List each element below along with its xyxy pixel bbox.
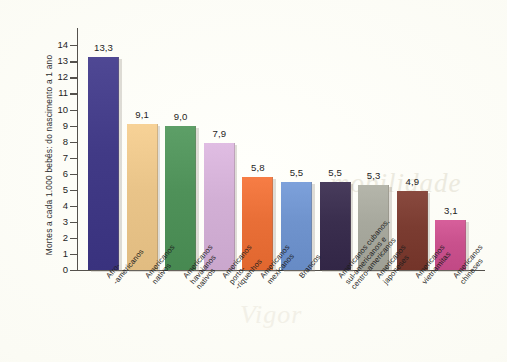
bar-value-label: 5,8 — [236, 162, 279, 173]
bar-value-label: 4,9 — [391, 176, 434, 187]
y-axis-tick-label: 12 — [46, 71, 68, 82]
y-axis-tick-label: 9 — [46, 120, 68, 131]
y-axis-tick-label: 8 — [46, 136, 68, 147]
y-axis-tick-mark — [70, 158, 78, 159]
bar-value-label: 13,3 — [82, 42, 125, 53]
y-axis-tick-mark — [70, 110, 78, 111]
y-axis-tick-mark — [70, 93, 78, 94]
bar — [88, 57, 119, 270]
y-axis-tick-label: 1 — [46, 248, 68, 259]
y-axis-tick-mark — [70, 270, 78, 271]
bar-chart-plot: Mortes a cada 1.000 bebês: do nascimento… — [0, 0, 507, 362]
y-axis-tick-label: 14 — [46, 39, 68, 50]
y-axis-tick-mark — [70, 61, 78, 62]
y-axis-tick-label: 11 — [46, 87, 68, 98]
bar-value-label: 9,1 — [121, 109, 164, 120]
y-axis-tick-label: 0 — [46, 264, 68, 275]
y-axis-tick-mark — [70, 238, 78, 239]
bar — [320, 182, 351, 270]
y-axis-tick-mark — [70, 77, 78, 78]
y-axis-tick-mark — [70, 222, 78, 223]
y-axis-tick-mark — [70, 174, 78, 175]
y-axis-tick-label: 13 — [46, 55, 68, 66]
chart-figure: mobilidade Vigor Mortes a cada 1.000 beb… — [0, 0, 507, 362]
y-axis-tick-label: 2 — [46, 232, 68, 243]
y-axis-tick-mark — [70, 126, 78, 127]
y-axis-tick-label: 6 — [46, 168, 68, 179]
bar-value-label: 5,5 — [275, 167, 318, 178]
y-axis-tick-mark — [70, 206, 78, 207]
y-axis-tick-label: 5 — [46, 184, 68, 195]
y-axis-tick-mark — [70, 142, 78, 143]
bar-value-label: 5,3 — [352, 170, 395, 181]
y-axis-line — [77, 28, 78, 271]
y-axis-tick-label: 3 — [46, 216, 68, 227]
y-axis-tick-mark — [70, 254, 78, 255]
y-axis-tick-mark — [70, 190, 78, 191]
bar-value-label: 9,0 — [159, 111, 202, 122]
y-axis-tick-label: 4 — [46, 200, 68, 211]
y-axis-tick-label: 7 — [46, 152, 68, 163]
bar-value-label: 5,5 — [314, 167, 357, 178]
y-axis-tick-label: 10 — [46, 104, 68, 115]
bar-value-label: 3,1 — [429, 205, 472, 216]
y-axis-tick-mark — [70, 45, 78, 46]
bar-value-label: 7,9 — [198, 128, 241, 139]
